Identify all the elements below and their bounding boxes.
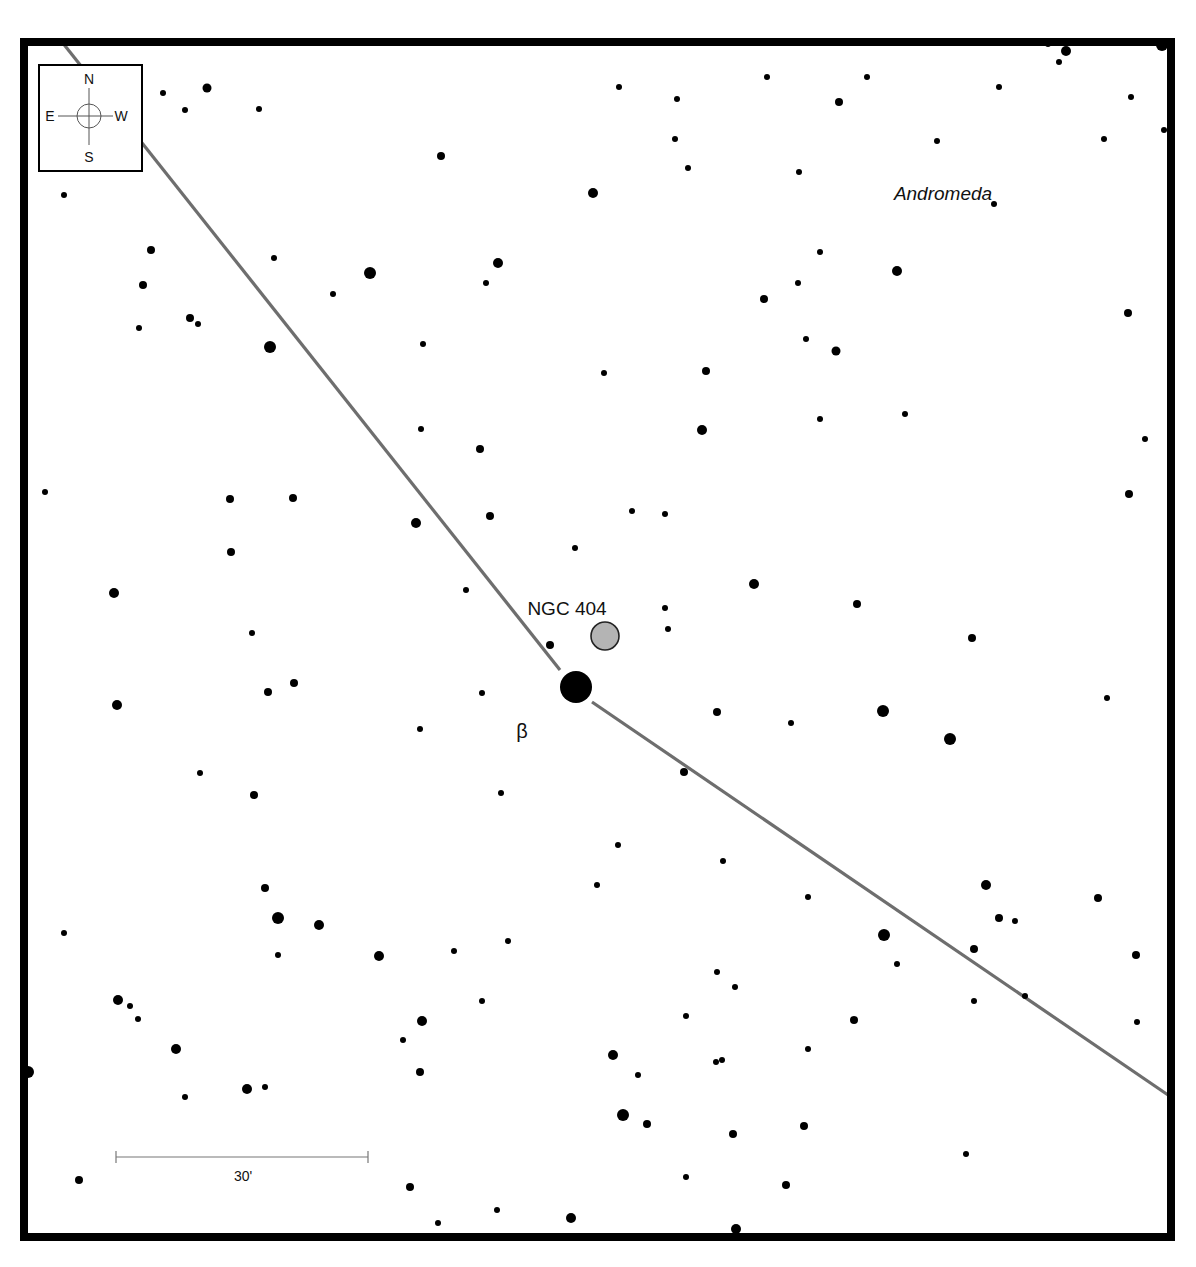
star (835, 98, 843, 106)
star (61, 192, 67, 198)
star (902, 411, 908, 417)
star (1104, 695, 1110, 701)
compass-west: W (114, 108, 128, 124)
star (479, 998, 485, 1004)
star (702, 367, 710, 375)
star (264, 341, 276, 353)
star (330, 291, 336, 297)
star (629, 508, 635, 514)
star (435, 1220, 441, 1226)
star (463, 587, 469, 593)
star (226, 495, 234, 503)
star (1022, 993, 1028, 999)
star (498, 790, 504, 796)
star (672, 136, 678, 142)
star (996, 84, 1002, 90)
star (732, 984, 738, 990)
star (894, 961, 900, 967)
star (75, 1176, 83, 1184)
star (61, 930, 67, 936)
star (437, 152, 445, 160)
star (714, 969, 720, 975)
star (250, 791, 258, 799)
star (171, 1044, 181, 1054)
constellation-label: Andromeda (893, 183, 992, 204)
star (275, 952, 281, 958)
star (203, 84, 212, 93)
star (683, 1174, 689, 1180)
star (135, 1016, 141, 1022)
star (749, 579, 759, 589)
star (242, 1084, 252, 1094)
star (364, 267, 376, 279)
star (788, 720, 794, 726)
star (113, 995, 123, 1005)
star (420, 341, 426, 347)
star (832, 347, 841, 356)
star (594, 882, 600, 888)
star (877, 705, 889, 717)
star (643, 1120, 651, 1128)
star (1128, 94, 1134, 100)
star (479, 690, 485, 696)
star (635, 1072, 641, 1078)
star (505, 938, 511, 944)
star (112, 700, 122, 710)
star (417, 1016, 427, 1026)
star (418, 426, 424, 432)
star (256, 106, 262, 112)
star (615, 842, 621, 848)
star (665, 626, 671, 632)
star (817, 416, 823, 422)
star (261, 884, 269, 892)
star (892, 266, 902, 276)
star (662, 511, 668, 517)
star (572, 545, 578, 551)
star (483, 280, 489, 286)
star (1132, 951, 1140, 959)
star (249, 630, 255, 636)
star (486, 512, 494, 520)
star (262, 1084, 268, 1090)
star (272, 912, 284, 924)
star (195, 321, 201, 327)
star (616, 84, 622, 90)
star (601, 370, 607, 376)
star (760, 295, 768, 303)
star (713, 1059, 719, 1065)
star (147, 246, 155, 254)
star (1124, 309, 1132, 317)
star (1056, 59, 1062, 65)
star (805, 1046, 811, 1052)
star (1094, 894, 1102, 902)
star (42, 489, 48, 495)
star (796, 169, 802, 175)
star (494, 1207, 500, 1213)
star (782, 1181, 790, 1189)
star (546, 641, 554, 649)
star (160, 90, 166, 96)
star (674, 96, 680, 102)
star (566, 1213, 576, 1223)
star (853, 600, 861, 608)
star (290, 679, 298, 687)
star (970, 945, 978, 953)
star (416, 1068, 424, 1076)
ngc-404-label: NGC 404 (527, 598, 607, 619)
star (136, 325, 142, 331)
star (617, 1109, 629, 1121)
beta-andromedae-star[interactable] (560, 671, 592, 703)
star (608, 1050, 618, 1060)
star (588, 188, 598, 198)
ngc-404-galaxy-marker[interactable] (591, 622, 619, 650)
star (697, 425, 707, 435)
star (729, 1130, 737, 1138)
star (680, 768, 688, 776)
compass-east: E (45, 108, 54, 124)
star (803, 336, 809, 342)
star (417, 726, 423, 732)
star (683, 1013, 689, 1019)
star (264, 688, 272, 696)
compass-south: S (84, 149, 93, 165)
star (971, 998, 977, 1004)
